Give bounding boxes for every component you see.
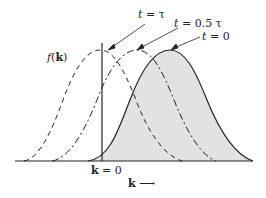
var: k bbox=[91, 164, 99, 177]
label-text: = 0 bbox=[206, 30, 229, 43]
origin-label: k = 0 bbox=[91, 165, 122, 176]
label-text: = 0 bbox=[99, 164, 122, 177]
curve-t0-fill bbox=[88, 50, 253, 161]
label-t-half-tau: t = 0.5 τ bbox=[174, 18, 222, 29]
label-text: = 0.5 τ bbox=[178, 17, 221, 30]
y-axis-label: f(k) bbox=[47, 52, 67, 63]
x-axis-label: k ⟶ bbox=[128, 178, 155, 189]
diagram-canvas: t = τ t = 0.5 τ t = 0 f(k) k = 0 k ⟶ bbox=[0, 0, 266, 198]
paren: ) bbox=[63, 51, 67, 64]
var: k bbox=[128, 177, 136, 190]
label-text: = τ bbox=[142, 8, 164, 21]
var: k bbox=[55, 51, 63, 64]
right-arrow-icon: ⟶ bbox=[139, 177, 155, 190]
label-t-tau: t = τ bbox=[138, 9, 165, 20]
label-t-zero: t = 0 bbox=[202, 31, 230, 42]
